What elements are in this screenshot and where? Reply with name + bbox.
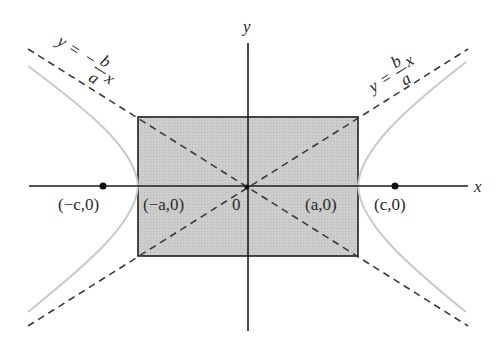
y-axis-label: y — [241, 17, 251, 36]
svg-text:a: a — [85, 68, 102, 89]
x-axis-label: x — [473, 177, 482, 196]
asymptote-positive-equation: y = b a x — [359, 45, 425, 107]
svg-text:y: y — [363, 76, 382, 97]
hyperbola-right-branch — [358, 62, 466, 312]
right-vertex-label: (a,0) — [305, 195, 337, 214]
hyperbola-left-branch — [28, 66, 138, 312]
svg-text:=: = — [66, 39, 84, 60]
svg-text:y: y — [52, 30, 71, 51]
right-focus-point — [392, 183, 399, 190]
svg-text:a: a — [397, 69, 414, 90]
svg-text:=: = — [377, 68, 395, 89]
origin-label: 0 — [232, 195, 241, 214]
left-focus-point — [100, 183, 107, 190]
left-vertex-label: (−a,0) — [143, 195, 184, 214]
hyperbola-diagram: x y 0 (−c,0) (−a,0) (a,0) (c,0) y = − b … — [0, 0, 504, 345]
asymptote-negative-equation: y = − b a x — [45, 25, 125, 95]
right-focus-label: (c,0) — [374, 195, 406, 214]
origin-point — [245, 185, 250, 190]
left-focus-label: (−c,0) — [58, 195, 99, 214]
